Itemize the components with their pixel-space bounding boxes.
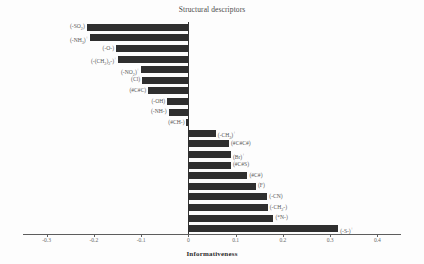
bar <box>188 172 247 179</box>
x-axis <box>23 234 401 235</box>
bar-row: (#C#C#) <box>23 140 401 147</box>
tick-label: 0.1 <box>232 237 239 243</box>
bar-label: (Cl) <box>131 75 140 84</box>
bar-label: (*N-) <box>275 213 287 222</box>
bar-row: (*N-) <box>23 215 401 222</box>
chart-figure: Structural descriptors (-SO2)(-NH3)+(-O-… <box>0 0 424 264</box>
plot-area: (-SO2)(-NH3)+(-O-)(-(CH2)2-)+(-NO2)+(Cl)… <box>23 22 401 234</box>
bar-label: (-SO2) <box>70 22 85 33</box>
bar <box>90 34 188 41</box>
tick-label: 0.3 <box>327 237 334 243</box>
bar <box>142 77 188 84</box>
bar <box>167 98 188 105</box>
bar-row: (-NH-) <box>23 109 401 116</box>
bar-row: (-O-) <box>23 45 401 52</box>
bar <box>188 215 273 222</box>
bar-label: (#CH-) <box>168 118 184 127</box>
bar-row: (-SO2) <box>23 24 401 31</box>
bar <box>188 183 256 190</box>
bar-row: (-NO2)+ <box>23 66 401 73</box>
bar <box>169 109 189 116</box>
bar-row: (-OH) <box>23 98 401 105</box>
bar-label: (F) <box>258 181 265 190</box>
bar <box>87 24 189 31</box>
bar <box>188 151 231 158</box>
tick-label: -0.3 <box>42 237 51 243</box>
tick-label: -0.2 <box>89 237 98 243</box>
bar-label: (-NH-) <box>151 107 167 116</box>
bar-row: (#C#C) <box>23 87 401 94</box>
bar <box>116 45 188 52</box>
bar-row: (F) <box>23 183 401 190</box>
bar <box>188 204 267 211</box>
bar-row: (-CH3)+ <box>23 130 401 137</box>
chart-title: Structural descriptors <box>0 5 424 14</box>
bar <box>188 130 215 137</box>
tick-label: -0.1 <box>137 237 146 243</box>
tick-label: 0.4 <box>374 237 381 243</box>
bar <box>186 119 188 126</box>
bar <box>188 162 231 169</box>
x-axis-label: Informativeness <box>0 250 424 258</box>
bar <box>188 193 267 200</box>
zero-axis-line <box>188 22 189 234</box>
bar-row: (#CH-) <box>23 119 401 126</box>
bar-label: (#C#) <box>249 171 262 180</box>
bar <box>118 56 188 63</box>
bar-row: (Br)+ <box>23 151 401 158</box>
bar-label: (#C#C#) <box>231 139 251 148</box>
bar <box>141 66 188 73</box>
bar <box>188 140 229 147</box>
bar <box>148 87 188 94</box>
bar-label: (-OH) <box>151 97 165 106</box>
bar-label: (-CN) <box>269 192 282 201</box>
bar-row: (-(CH2)2-)+ <box>23 56 401 63</box>
tick-label: 0.2 <box>279 237 286 243</box>
bar-label: (-O-) <box>103 44 115 53</box>
bar-label: (-CH2-) <box>270 203 287 214</box>
bar-label: (#C#C) <box>129 86 146 95</box>
bar-row: (-NH3)+ <box>23 34 401 41</box>
bar-row: (Cl) <box>23 77 401 84</box>
tick-label: 0 <box>187 237 190 243</box>
bar-label: (#C#S) <box>233 160 249 169</box>
bar-row: (#C#) <box>23 172 401 179</box>
bar-row: (-CN) <box>23 193 401 200</box>
bar-row: (#C#S) <box>23 162 401 169</box>
bar-row: (-CH2-) <box>23 204 401 211</box>
bar <box>188 225 338 232</box>
bar-row: (-S-)+ <box>23 225 401 232</box>
